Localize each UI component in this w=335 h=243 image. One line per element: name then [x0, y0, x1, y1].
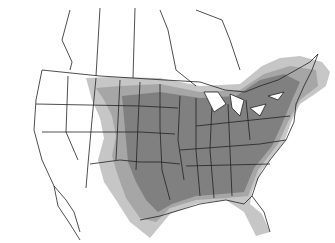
north-america-map — [0, 0, 335, 243]
range-map — [0, 0, 335, 243]
